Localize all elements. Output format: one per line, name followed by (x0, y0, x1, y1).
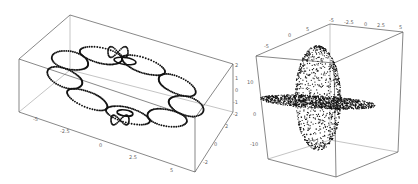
tick-label: -2 (233, 111, 238, 117)
tick-label: 0 (253, 111, 256, 117)
tick-label: 1 (235, 75, 238, 81)
tick-label: -5 (329, 17, 334, 23)
tick-label: 2 (235, 62, 238, 68)
tick-label: 5 (306, 26, 309, 32)
left-z-axis-ticks: 2 1 0 -1 -2 (233, 62, 238, 117)
left-3d-scatter-plot: -5 -2.5 0 2.5 5 2 0 -2 2 1 0 -1 -2 (0, 0, 240, 184)
tick-label: -2.5 (60, 128, 70, 134)
right-3d-scatter-plot: -5 -2.5 0 2.5 5 -5 0 5 10 0 -10 (240, 0, 418, 184)
left-bounding-box (19, 15, 233, 172)
tick-label: 2.5 (129, 154, 137, 160)
tick-label: 0 (235, 87, 238, 93)
tick-label: -5 (33, 116, 38, 122)
tick-label: 0 (214, 141, 217, 147)
tick-label: 5 (399, 24, 402, 30)
tick-label: -1 (233, 99, 238, 105)
tick-label: -2.5 (344, 19, 354, 25)
tick-label: -2 (203, 159, 208, 165)
tick-label: 10 (247, 79, 253, 85)
tick-label: -5 (264, 43, 269, 49)
tick-label: 2.5 (377, 22, 385, 28)
tick-label: 0 (364, 21, 367, 27)
right-y-axis-ticks: -5 0 5 (264, 26, 309, 49)
tick-label: 5 (170, 167, 173, 173)
tick-label: 0 (288, 32, 291, 38)
tick-label: 0 (99, 142, 102, 148)
right-points (260, 45, 375, 150)
left-x-axis-ticks: -5 -2.5 0 2.5 5 (33, 116, 173, 173)
left-y-axis-ticks: 2 0 -2 (203, 123, 228, 165)
right-z-axis-ticks: 10 0 -10 (247, 79, 258, 147)
tick-label: 2 (225, 123, 228, 129)
tick-label: -10 (250, 141, 258, 147)
